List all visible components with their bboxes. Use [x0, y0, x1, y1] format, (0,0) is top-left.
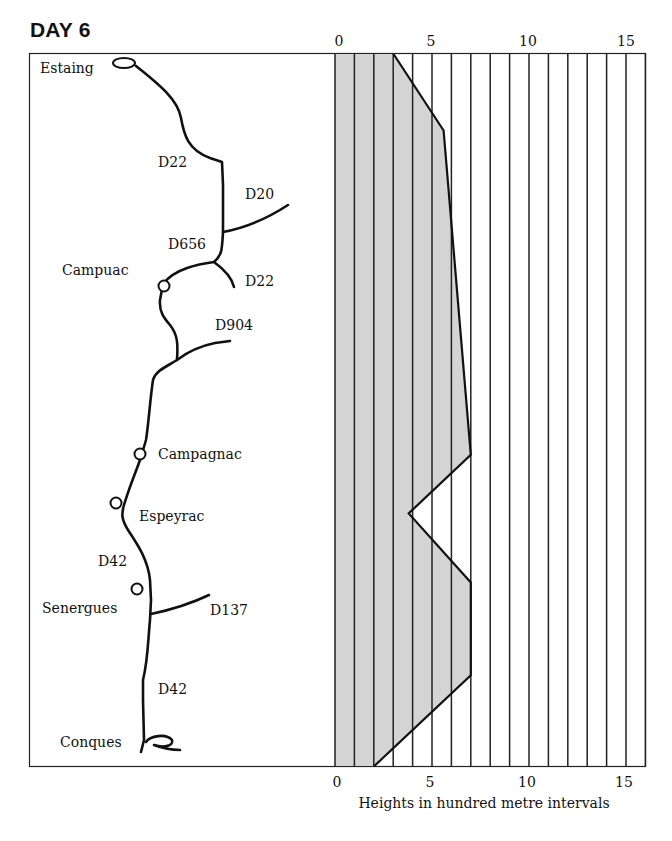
place-label-espeyrac: Espeyrac	[139, 508, 205, 524]
road-d22-south	[214, 262, 234, 287]
bottom-axis-ticks: 0 5 10 15	[333, 774, 633, 790]
road-label-d137: D137	[210, 602, 248, 618]
road-label-d42: D42	[98, 553, 127, 569]
route-figure: 0 5 10 15 0 5 10 15 Heights in hundred m…	[0, 0, 672, 841]
road-label-d656: D656	[168, 236, 206, 252]
road-labels: D22 D20 D656 D22 D904 D42 D137 D42	[98, 154, 274, 697]
town-marker-campagnac	[135, 449, 146, 460]
tick-top-5: 5	[427, 33, 436, 49]
place-label-estaing: Estaing	[40, 60, 94, 76]
place-label-campuac: Campuac	[62, 262, 129, 278]
x-axis-title: Heights in hundred metre intervals	[358, 795, 609, 811]
road-label-d42-south: D42	[158, 681, 187, 697]
road-label-d22: D22	[158, 154, 187, 170]
place-label-campagnac: Campagnac	[158, 446, 242, 462]
town-marker-campuac	[159, 281, 170, 292]
elevation-profile	[335, 54, 645, 767]
tick-bottom-5: 5	[426, 774, 435, 790]
tick-bottom-0: 0	[333, 774, 342, 790]
road-label-d904: D904	[215, 317, 253, 333]
place-labels: Estaing Campuac Campagnac Espeyrac Sener…	[40, 60, 242, 750]
place-label-conques: Conques	[60, 734, 122, 750]
road-d20	[223, 205, 288, 232]
town-marker-senergues	[132, 584, 143, 595]
road-label-d22-south: D22	[245, 273, 274, 289]
tick-top-10: 10	[519, 33, 537, 49]
road-d137	[151, 595, 209, 614]
road-d904	[177, 341, 230, 360]
tick-top-0: 0	[335, 33, 344, 49]
place-label-senergues: Senergues	[42, 600, 117, 616]
top-axis-ticks: 0 5 10 15	[335, 33, 635, 49]
tick-bottom-15: 15	[615, 774, 633, 790]
tick-bottom-10: 10	[518, 774, 536, 790]
tick-top-15: 15	[617, 33, 635, 49]
road-label-d20: D20	[245, 186, 274, 202]
town-marker-estaing	[113, 58, 135, 68]
route-map	[122, 66, 288, 752]
town-marker-espeyrac	[111, 498, 122, 509]
conques-loop	[146, 736, 180, 750]
